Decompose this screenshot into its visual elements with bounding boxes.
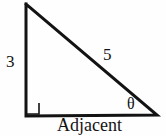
- hypotenuse-label: 5: [103, 46, 112, 63]
- adjacent-side-label: Adjacent: [57, 116, 122, 134]
- right-angle-icon: [27, 103, 39, 114]
- triangle-figure: 3 5 θ Adjacent: [0, 0, 166, 136]
- opposite-side-label: 3: [6, 53, 15, 70]
- triangle-outline: [26, 4, 157, 116]
- angle-theta-label: θ: [127, 96, 135, 112]
